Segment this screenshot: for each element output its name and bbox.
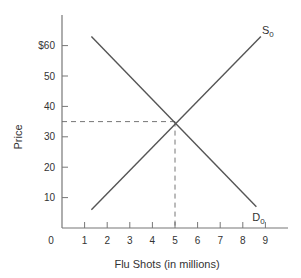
demand-label: D0 <box>252 211 265 226</box>
x-tick-label: 4 <box>150 235 156 246</box>
x-tick-label: 6 <box>195 235 201 246</box>
y-tick-label: 50 <box>44 71 56 82</box>
equilibrium-guides <box>62 122 175 228</box>
y-tick-label: 30 <box>44 131 56 142</box>
y-tick-label: 10 <box>44 192 56 203</box>
x-tick-label: 5 <box>172 235 178 246</box>
x-axis-title: Flu Shots (in millions) <box>114 258 219 270</box>
x-tick-label: 8 <box>240 235 246 246</box>
origin-label: 0 <box>48 235 54 246</box>
curves <box>91 36 261 209</box>
y-tick-label: 40 <box>44 101 56 112</box>
y-tick-label: 20 <box>44 162 56 173</box>
x-tick-label: 9 <box>263 235 269 246</box>
supply-label: S0 <box>262 24 274 39</box>
y-axis-title: Price <box>12 124 24 149</box>
x-tick-label: 7 <box>217 235 223 246</box>
y-tick-label: $60 <box>38 40 55 51</box>
x-tick-label: 3 <box>127 235 133 246</box>
supply-demand-chart: Price Flu Shots (in millions) 0 10203040… <box>0 0 301 278</box>
labels: Price Flu Shots (in millions) 0 10203040… <box>12 24 274 270</box>
x-tick-label: 2 <box>104 235 110 246</box>
x-tick-label: 1 <box>82 235 88 246</box>
